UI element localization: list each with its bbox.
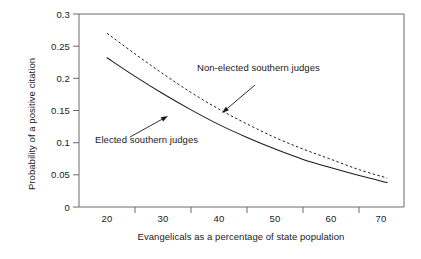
x-axis-title: Evangelicals as a percentage of state po… [101, 231, 381, 242]
x-tick-label-40: 40 [205, 213, 233, 224]
annotation-arrow-non-elected [222, 85, 255, 113]
y-tick-label-1: 0.05 [40, 169, 70, 180]
curve-non-elected [107, 33, 387, 178]
y-tick-label-2: 0.1 [40, 137, 70, 148]
series-annotation-non-elected: Non-elected southern judges [197, 62, 320, 73]
x-tick-label-70: 70 [367, 213, 395, 224]
series-annotation-elected: Elected southern judges [95, 134, 198, 145]
x-tick-label-30: 30 [149, 213, 177, 224]
y-tick-label-6: 0.3 [40, 9, 70, 20]
chart-figure: 0 0.05 0.1 0.15 0.2 0.25 0.3 20 30 40 50… [0, 0, 421, 259]
curve-elected [107, 58, 387, 183]
y-tick-label-4: 0.2 [40, 73, 70, 84]
y-tick-label-5: 0.25 [40, 41, 70, 52]
y-tick-label-3: 0.15 [40, 105, 70, 116]
x-tick-label-60: 60 [317, 213, 345, 224]
y-axis-ticks [73, 14, 79, 207]
plot-frame [79, 14, 404, 207]
x-tick-label-50: 50 [261, 213, 289, 224]
y-axis-title: Probability of a positive citation [26, 58, 37, 190]
series-line-non-elected-v [107, 33, 381, 186]
y-tick-label-0: 0 [40, 202, 70, 213]
x-tick-label-20: 20 [93, 213, 121, 224]
